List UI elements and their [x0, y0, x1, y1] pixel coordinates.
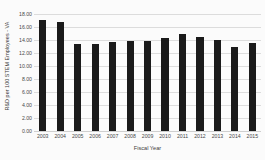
- bar-slot: [174, 14, 191, 131]
- bar-slot: [104, 14, 121, 131]
- plot-area: [34, 14, 261, 131]
- bar-slot: [191, 14, 208, 131]
- bar: [249, 43, 256, 131]
- bar: [231, 47, 238, 132]
- bar-chart-figure: R&D per 100 STEM Employees - VA 18.0016.…: [0, 0, 265, 160]
- x-axis-tick-label: 2013: [209, 133, 226, 143]
- bar-slot: [121, 14, 138, 131]
- y-axis-tick-label: 16.00: [19, 24, 32, 30]
- x-axis-tick-label: 2010: [156, 133, 173, 143]
- x-axis-tick-label: 2006: [86, 133, 103, 143]
- bar: [179, 34, 186, 132]
- x-axis-tick-label: 2005: [69, 133, 86, 143]
- y-axis-tick-label: 0.00: [22, 128, 32, 134]
- bar: [144, 41, 151, 131]
- x-axis-title: Fiscal Year: [34, 145, 261, 151]
- y-axis-title-text: R&D per 100 STEM Employees - VA: [4, 22, 10, 111]
- x-axis-tick-label: 2012: [191, 133, 208, 143]
- x-axis-tick-label: 2007: [104, 133, 121, 143]
- y-axis-tick-labels: 18.0016.0014.0012.0010.008.006.004.002.0…: [13, 14, 32, 131]
- bar-slot: [209, 14, 226, 131]
- bar: [74, 44, 81, 131]
- y-axis-tick-label: 4.00: [22, 102, 32, 108]
- bar: [109, 42, 116, 131]
- x-axis-tick-label: 2004: [51, 133, 68, 143]
- bar-slot: [226, 14, 243, 131]
- bar-slot: [86, 14, 103, 131]
- y-axis-tick-label: 8.00: [22, 76, 32, 82]
- bar-slot: [34, 14, 51, 131]
- bar: [92, 44, 99, 131]
- x-axis-tick-label: 2008: [121, 133, 138, 143]
- bar: [39, 20, 46, 131]
- bar: [127, 41, 134, 131]
- y-axis-tick-label: 6.00: [22, 89, 32, 95]
- x-axis-tick-label: 2003: [34, 133, 51, 143]
- x-axis-tick-label: 2011: [174, 133, 191, 143]
- bar-slot: [139, 14, 156, 131]
- x-axis-tick-label: 2014: [226, 133, 243, 143]
- bar: [196, 37, 203, 131]
- y-axis-tick-label: 12.00: [19, 50, 32, 56]
- y-axis-tick-label: 14.00: [19, 37, 32, 43]
- bar: [214, 40, 221, 131]
- bar-slot: [156, 14, 173, 131]
- bar: [161, 38, 168, 131]
- bar-slot: [51, 14, 68, 131]
- bar: [57, 22, 64, 131]
- bar-slot: [69, 14, 86, 131]
- x-axis-tick-label: 2009: [139, 133, 156, 143]
- y-axis-tick-label: 18.00: [19, 11, 32, 17]
- bars-layer: [34, 14, 261, 131]
- x-axis-tick-labels: 2003200420052006200720082009201020112012…: [34, 133, 261, 143]
- gridline: [34, 131, 261, 132]
- y-axis-title: R&D per 100 STEM Employees - VA: [0, 0, 14, 132]
- bar-slot: [244, 14, 261, 131]
- y-axis-tick-label: 2.00: [22, 115, 32, 121]
- y-axis-tick-label: 10.00: [19, 63, 32, 69]
- x-axis-tick-label: 2015: [244, 133, 261, 143]
